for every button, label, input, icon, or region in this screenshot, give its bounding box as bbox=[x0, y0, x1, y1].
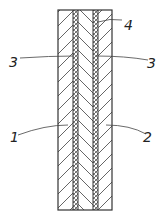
layer-3-left bbox=[73, 10, 78, 210]
label-3-left: 3 bbox=[9, 54, 18, 70]
layer-4 bbox=[78, 10, 93, 210]
label-3-right: 3 bbox=[147, 55, 156, 71]
layer-3-right bbox=[93, 10, 98, 210]
layer-1 bbox=[58, 10, 73, 210]
label-2: 2 bbox=[143, 129, 152, 145]
label-4: 4 bbox=[124, 17, 133, 33]
layer-cross-section-diagram: 4 3 3 1 2 bbox=[0, 0, 164, 223]
layer-2 bbox=[98, 10, 112, 210]
label-1: 1 bbox=[10, 129, 19, 145]
